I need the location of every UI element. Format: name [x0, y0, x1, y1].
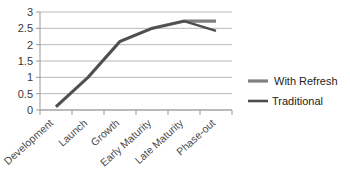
- y-label-3: 3: [27, 6, 33, 18]
- legend-label-with-refresh: With Refresh: [274, 75, 338, 87]
- legend-label-traditional: Traditional: [272, 95, 323, 107]
- y-axis-labels: 3 2.5 2 1.5 1 0.5 0: [18, 6, 33, 116]
- chart-canvas: 3 2.5 2 1.5 1 0.5 0 Development Launch G…: [0, 0, 350, 190]
- y-label-2.5: 2.5: [18, 22, 33, 34]
- y-label-2: 2: [27, 39, 33, 51]
- y-label-1: 1: [27, 71, 33, 83]
- y-label-1.5: 1.5: [18, 55, 33, 67]
- y-label-0: 0: [27, 104, 33, 116]
- line-chart: 3 2.5 2 1.5 1 0.5 0 Development Launch G…: [0, 0, 350, 190]
- y-label-0.5: 0.5: [18, 88, 33, 100]
